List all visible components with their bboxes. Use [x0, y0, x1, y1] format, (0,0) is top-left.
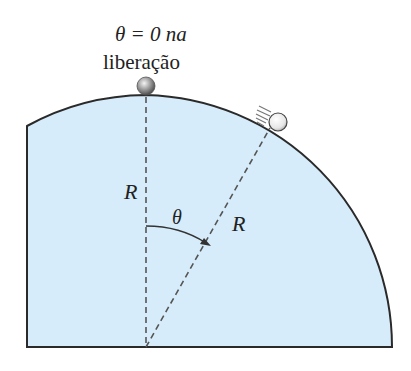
radius-label-vertical: R	[124, 181, 137, 203]
diagram-canvas	[0, 0, 411, 371]
radius-label-slanted: R	[232, 213, 245, 235]
ball-sliding	[269, 113, 287, 131]
ball-at-release	[137, 77, 155, 95]
release-label-line2: liberação	[103, 52, 180, 73]
release-label-line1: θ = 0 na	[115, 24, 187, 45]
hemisphere-section	[27, 95, 392, 347]
angle-label: θ	[172, 207, 182, 227]
